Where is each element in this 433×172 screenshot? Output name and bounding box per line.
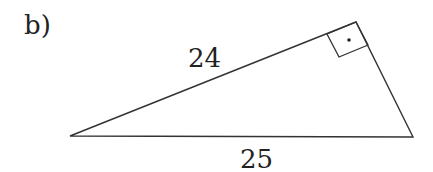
right-triangle-diagram bbox=[0, 0, 433, 172]
right-angle-dot bbox=[347, 38, 351, 42]
side-label-24: 24 bbox=[188, 45, 221, 71]
triangle-shape bbox=[70, 22, 413, 137]
side-label-25: 25 bbox=[240, 146, 273, 172]
